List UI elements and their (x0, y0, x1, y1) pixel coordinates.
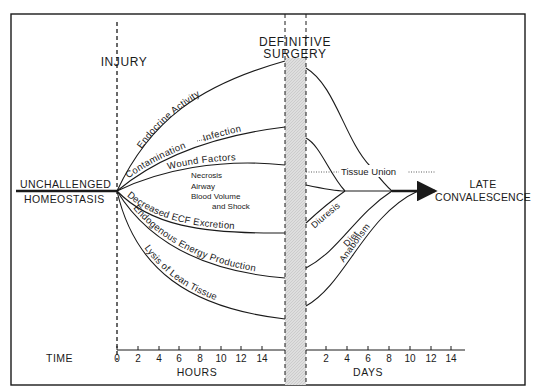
svg-text:10: 10 (404, 353, 416, 364)
svg-text:2: 2 (323, 353, 329, 364)
svg-text:10: 10 (215, 353, 227, 364)
surgery-label-line2: SURGERY (263, 47, 326, 61)
surgery-band (285, 58, 306, 385)
svg-text:4: 4 (344, 353, 350, 364)
wound-item-necrosis: Necrosis (191, 171, 222, 180)
svg-text:14: 14 (256, 353, 268, 364)
svg-text:6: 6 (176, 353, 182, 364)
hours-label: HOURS (177, 366, 217, 378)
svg-text:Infection: Infection (201, 122, 242, 143)
late-label: LATE (469, 178, 496, 190)
curve-post-wound-resolve (306, 185, 345, 191)
hours-ticks: 0 2 4 6 8 10 12 14 (114, 353, 268, 364)
days-ticks: 2 4 6 8 10 12 14 (323, 353, 457, 364)
label-tissue-union: Tissue Union (341, 166, 396, 177)
label-contamination-infection: Contamination Infection (123, 122, 242, 180)
wound-item-and-shock: and Shock (212, 202, 251, 211)
svg-text:2: 2 (135, 353, 141, 364)
wound-item-airway: Airway (191, 182, 215, 191)
time-axis-label: TIME (46, 352, 73, 364)
convalescence-label: CONVALESCENCE (435, 191, 531, 203)
unchallenged-label: UNCHALLENGED (20, 178, 111, 190)
label-endocrine-activity: Endocrine Activity (134, 88, 201, 151)
svg-text:12: 12 (235, 353, 247, 364)
svg-text:12: 12 (425, 353, 437, 364)
svg-text:8: 8 (197, 353, 203, 364)
homeostasis-label: HOMEOSTASIS (24, 193, 105, 205)
wound-item-blood-volume: Blood Volume (191, 192, 241, 201)
days-label: DAYS (353, 366, 383, 378)
svg-text:8: 8 (386, 353, 392, 364)
svg-text:6: 6 (365, 353, 371, 364)
curve-post-infection-decline (306, 138, 345, 191)
svg-text:4: 4 (156, 353, 162, 364)
svg-text:0: 0 (114, 353, 120, 364)
svg-text:14: 14 (445, 353, 457, 364)
injury-label: INJURY (101, 55, 148, 69)
surgical-convalescence-diagram: INJURY DEFINITIVE SURGERY UNCHALLENGED H… (0, 0, 535, 391)
